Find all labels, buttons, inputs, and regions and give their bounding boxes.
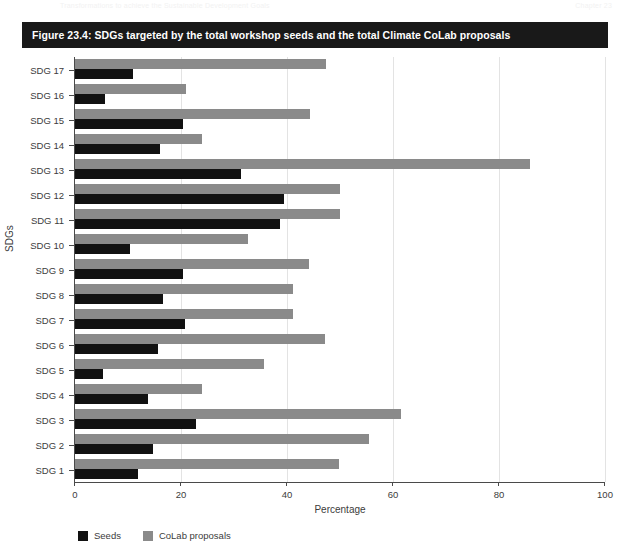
legend-swatch-icon bbox=[78, 531, 88, 541]
bar-colab-proposals bbox=[75, 459, 339, 469]
y-tick-label: SDG 8 bbox=[35, 289, 64, 300]
bar-seeds bbox=[75, 119, 183, 129]
y-tick-label: SDG 7 bbox=[35, 314, 64, 325]
x-tick-label: 100 bbox=[597, 489, 613, 500]
legend-label: Seeds bbox=[94, 530, 121, 541]
bar-seeds bbox=[75, 394, 148, 404]
chart-legend: SeedsCoLab proposals bbox=[78, 530, 231, 541]
bar-seeds bbox=[75, 219, 280, 229]
y-tick-label: SDG 3 bbox=[35, 414, 64, 425]
legend-item: CoLab proposals bbox=[143, 530, 231, 541]
bar-seeds bbox=[75, 244, 130, 254]
legend-swatch-icon bbox=[143, 531, 153, 541]
x-tick bbox=[498, 482, 499, 486]
x-tick bbox=[180, 482, 181, 486]
y-tick-label: SDG 6 bbox=[35, 339, 64, 350]
bar-seeds bbox=[75, 419, 196, 429]
figure-page: Transformations to achieve the Sustainab… bbox=[0, 0, 630, 546]
bar-seeds bbox=[75, 319, 185, 329]
figure-caption-text: Figure 23.4: SDGs targeted by the total … bbox=[22, 29, 510, 41]
bar-colab-proposals bbox=[75, 209, 340, 219]
running-header-right: Chapter 23 bbox=[575, 0, 612, 12]
bar-seeds bbox=[75, 194, 284, 204]
x-axis-title: Percentage bbox=[75, 504, 605, 515]
y-tick-label: SDG 4 bbox=[35, 389, 64, 400]
legend-label: CoLab proposals bbox=[159, 530, 231, 541]
bar-seeds bbox=[75, 269, 183, 279]
bar-colab-proposals bbox=[75, 134, 202, 144]
y-tick-label: SDG 10 bbox=[30, 239, 64, 250]
x-tick-label: 0 bbox=[72, 489, 77, 500]
x-tick bbox=[392, 482, 393, 486]
running-header-left: Transformations to achieve the Sustainab… bbox=[60, 0, 270, 12]
y-tick-label: SDG 17 bbox=[30, 64, 64, 75]
bar-seeds bbox=[75, 94, 105, 104]
bar-colab-proposals bbox=[75, 159, 530, 169]
bar-colab-proposals bbox=[75, 334, 325, 344]
y-tick-label: SDG 14 bbox=[30, 139, 64, 150]
x-tick bbox=[74, 482, 75, 486]
y-tick-label: SDG 9 bbox=[35, 264, 64, 275]
bar-colab-proposals bbox=[75, 259, 309, 269]
bar-seeds bbox=[75, 144, 160, 154]
bar-colab-proposals bbox=[75, 84, 186, 94]
bar-seeds bbox=[75, 69, 133, 79]
bar-colab-proposals bbox=[75, 184, 340, 194]
bar-seeds bbox=[75, 294, 163, 304]
bar-colab-proposals bbox=[75, 234, 248, 244]
x-tick bbox=[604, 482, 605, 486]
bar-colab-proposals bbox=[75, 409, 401, 419]
x-axis-line bbox=[74, 482, 605, 483]
x-tick-label: 20 bbox=[176, 489, 187, 500]
plot-area bbox=[75, 57, 605, 482]
gridline bbox=[605, 57, 606, 482]
bar-colab-proposals bbox=[75, 284, 293, 294]
x-tick bbox=[286, 482, 287, 486]
y-tick-label: SDG 16 bbox=[30, 89, 64, 100]
bar-colab-proposals bbox=[75, 434, 369, 444]
bar-colab-proposals bbox=[75, 359, 264, 369]
chart: SDGs SDG 1SDG 2SDG 3SDG 4SDG 5SDG 6SDG 7… bbox=[0, 52, 630, 546]
running-header: Transformations to achieve the Sustainab… bbox=[0, 0, 630, 12]
bar-seeds bbox=[75, 369, 103, 379]
bar-seeds bbox=[75, 169, 241, 179]
y-axis-title: SDGs bbox=[4, 225, 15, 252]
y-tick-label: SDG 2 bbox=[35, 439, 64, 450]
x-tick-label: 80 bbox=[494, 489, 505, 500]
y-tick-label: SDG 13 bbox=[30, 164, 64, 175]
bar-colab-proposals bbox=[75, 309, 293, 319]
bar-colab-proposals bbox=[75, 109, 310, 119]
y-tick-label: SDG 1 bbox=[35, 464, 64, 475]
bar-seeds bbox=[75, 444, 153, 454]
x-tick-label: 40 bbox=[282, 489, 293, 500]
figure-caption-bar: Figure 23.4: SDGs targeted by the total … bbox=[22, 22, 608, 48]
y-tick-label: SDG 15 bbox=[30, 114, 64, 125]
y-tick-label: SDG 12 bbox=[30, 189, 64, 200]
bar-seeds bbox=[75, 344, 158, 354]
bar-colab-proposals bbox=[75, 384, 202, 394]
x-tick-label: 60 bbox=[388, 489, 399, 500]
y-tick-label: SDG 11 bbox=[31, 214, 64, 225]
legend-item: Seeds bbox=[78, 530, 121, 541]
bar-colab-proposals bbox=[75, 59, 326, 69]
bar-seeds bbox=[75, 469, 138, 479]
y-tick-label: SDG 5 bbox=[35, 364, 64, 375]
